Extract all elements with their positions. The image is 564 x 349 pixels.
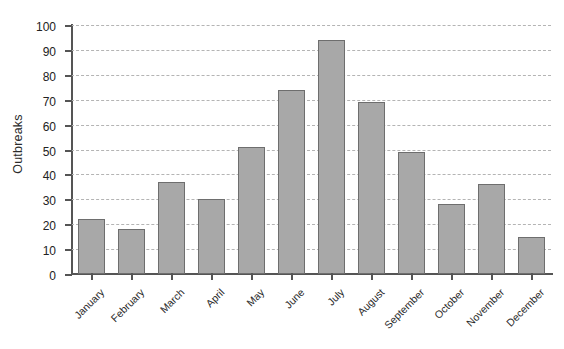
x-tick-mark: [211, 273, 213, 280]
x-tick-mark: [131, 273, 133, 280]
x-tick-label: May: [244, 286, 267, 309]
x-tick-label: September: [382, 286, 427, 331]
bars-layer: [71, 25, 551, 274]
bar: [158, 182, 185, 274]
x-tick-mark: [291, 273, 293, 280]
x-tick-label: December: [504, 286, 547, 329]
x-tick-label: January: [72, 286, 107, 321]
bar: [318, 40, 345, 274]
bar-chart: Outbreaks 0102030405060708090100 January…: [0, 0, 564, 349]
y-tick-mark: 0: [65, 274, 72, 276]
y-tick-label: 20: [43, 219, 56, 233]
bar: [198, 199, 225, 274]
plot-area: 0102030405060708090100: [71, 25, 551, 274]
y-tick-label: 50: [43, 145, 56, 159]
x-tick-label: November: [464, 286, 507, 329]
x-tick-mark: [371, 273, 373, 280]
bar: [358, 102, 385, 274]
bar: [438, 204, 465, 274]
x-tick-mark: [331, 273, 333, 280]
y-tick-label: 40: [43, 169, 56, 183]
x-tick-label: July: [325, 286, 347, 308]
x-tick-mark: [251, 273, 253, 280]
bar: [478, 184, 505, 274]
y-axis-title: Outbreaks: [11, 79, 25, 209]
bar: [398, 152, 425, 274]
bar: [278, 90, 305, 274]
y-tick-label: 10: [43, 244, 56, 258]
x-tick-label: August: [355, 286, 387, 318]
x-tick-mark: [531, 273, 533, 280]
bar: [238, 147, 265, 274]
x-tick-label: March: [157, 286, 186, 315]
x-tick-mark: [411, 273, 413, 280]
y-tick-label: 100: [36, 20, 56, 34]
x-tick-label: February: [108, 286, 146, 324]
x-tick-label: October: [432, 286, 467, 321]
x-tick-mark: [491, 273, 493, 280]
bar: [518, 237, 545, 274]
x-tick-label: June: [282, 286, 307, 311]
y-tick-label: 70: [43, 95, 56, 109]
x-tick-mark: [451, 273, 453, 280]
y-tick-label: 30: [43, 194, 56, 208]
y-tick-label: 60: [43, 120, 56, 134]
bar: [78, 219, 105, 274]
x-tick-label: April: [203, 286, 226, 309]
x-tick-mark: [171, 273, 173, 280]
bar: [118, 229, 145, 274]
y-tick-label: 80: [43, 70, 56, 84]
x-tick-mark: [91, 273, 93, 280]
y-tick-label: 90: [43, 45, 56, 59]
y-tick-label: 0: [49, 269, 56, 283]
